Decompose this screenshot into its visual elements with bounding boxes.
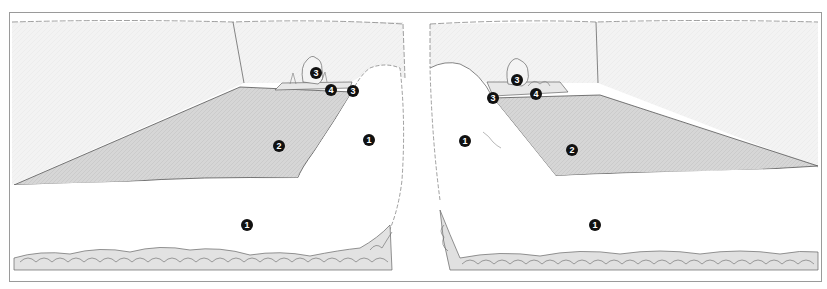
marker-planter: 4 xyxy=(530,88,542,100)
marker-path-upper: 1 xyxy=(363,134,375,146)
marker-path-upper: 1 xyxy=(459,135,471,147)
marker-shrub: 3 xyxy=(511,74,523,86)
garden-sketch-illustration xyxy=(0,0,827,289)
right-panel xyxy=(430,21,818,271)
marker-planter: 4 xyxy=(325,84,337,96)
marker-lawn: 2 xyxy=(566,144,578,156)
marker-lawn: 2 xyxy=(273,140,285,152)
right-planter xyxy=(487,82,568,96)
marker-path-lower: 1 xyxy=(589,219,601,231)
marker-shrub-edge: 3 xyxy=(487,92,499,104)
marker-path-lower: 1 xyxy=(241,219,253,231)
left-panel xyxy=(12,21,405,271)
marker-shrub: 3 xyxy=(310,67,322,79)
marker-shrub-edge: 3 xyxy=(347,85,359,97)
